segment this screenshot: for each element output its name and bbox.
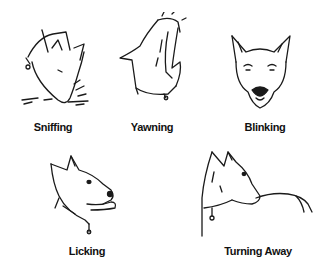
panel-label-licking: Licking (69, 245, 105, 257)
panel-label-blinking: Blinking (245, 121, 286, 133)
dog-licking-icon (45, 152, 125, 242)
dog-blinking-icon (228, 32, 294, 112)
panel-label-turning-away: Turning Away (224, 245, 292, 257)
dog-sniffing-icon (18, 22, 93, 107)
dog-turning-away-icon (198, 146, 318, 238)
panel-label-yawning: Yawning (131, 121, 174, 133)
panel-label-sniffing: Sniffing (34, 121, 73, 133)
dog-yawning-icon (118, 12, 190, 102)
